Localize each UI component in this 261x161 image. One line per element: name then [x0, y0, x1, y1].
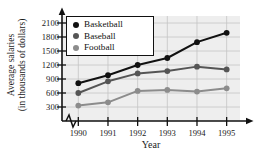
x-tick-label: 1993: [159, 129, 176, 138]
legend-item-football[interactable]: Football: [71, 42, 149, 54]
legend-label-football: Football: [84, 43, 115, 52]
chart-legend: Basketball Baseball Football: [66, 16, 154, 56]
legend-item-basketball[interactable]: Basketball: [71, 19, 149, 31]
x-tick-label: 1995: [218, 129, 235, 138]
x-axis-title: Year: [62, 139, 240, 150]
legend-label-baseball: Baseball: [84, 32, 116, 41]
legend-label-basketball: Basketball: [84, 20, 123, 29]
x-tick-label: 1992: [129, 129, 146, 138]
salaries-line-chart: Average salaries (in thousands of dollar…: [0, 0, 261, 161]
legend-item-baseball[interactable]: Baseball: [71, 31, 149, 43]
legend-marker-baseball: [73, 33, 79, 39]
legend-marker-basketball: [73, 22, 79, 28]
x-tick-label: 1991: [99, 129, 116, 138]
x-tick-label: 1994: [188, 129, 205, 138]
legend-marker-football: [73, 45, 79, 51]
x-tick-label: 1990: [70, 129, 87, 138]
